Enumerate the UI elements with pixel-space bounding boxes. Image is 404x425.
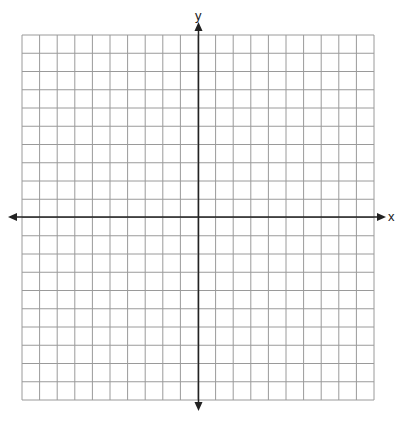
y-axis-down-arrow-icon (195, 402, 203, 411)
x-axis-left-arrow-icon (8, 213, 17, 221)
x-axis-right-arrow-icon (377, 213, 386, 221)
coordinate-grid (0, 0, 404, 425)
y-axis-label: y (195, 9, 202, 22)
y-axis-up-arrow-icon (195, 22, 203, 31)
x-axis-label: x (388, 210, 395, 223)
